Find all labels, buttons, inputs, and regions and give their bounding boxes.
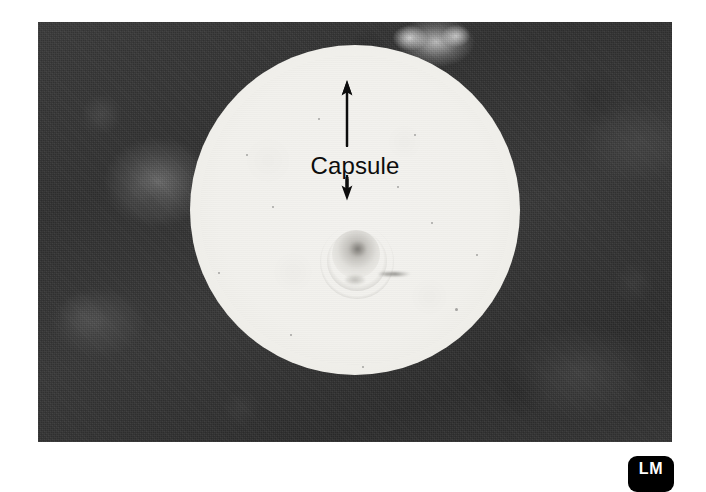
lm-magnification-badge: LM (628, 456, 674, 492)
capsule-halo (190, 45, 520, 375)
cell-division-septum (377, 272, 411, 276)
cell-nucleoid (350, 242, 366, 256)
cell-lower-inclusion (345, 275, 365, 285)
micrograph-image: Capsule (38, 22, 672, 442)
